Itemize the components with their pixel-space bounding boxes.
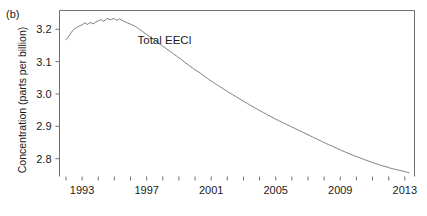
y-tick-label: 3.0 (36, 88, 51, 100)
series-annotation-label: Total EECl (138, 34, 192, 46)
x-tick-label: 2009 (328, 184, 352, 196)
y-tick-label: 2.8 (36, 153, 51, 165)
annotation-group: Total EECl (138, 34, 192, 46)
y-tick-label-group: 2.82.93.03.13.2 (36, 23, 51, 164)
x-tick-label: 1997 (134, 184, 158, 196)
x-tick-label: 2005 (263, 184, 287, 196)
figure-panel-b: (b) Concentration (parts per billion) 2.… (0, 0, 427, 216)
plot-frame (60, 11, 415, 177)
x-tick-label: 1993 (70, 184, 94, 196)
y-tick-mark-group (56, 29, 60, 158)
y-tick-label: 3.2 (36, 23, 51, 35)
data-series-total-eecl (66, 19, 409, 173)
line-chart-plot: 2.82.93.03.13.2 199319972001200520092013… (0, 0, 427, 216)
x-tick-label: 2001 (199, 184, 223, 196)
y-tick-label: 3.1 (36, 56, 51, 68)
x-tick-label-group: 199319972001200520092013 (70, 184, 417, 196)
x-tick-label: 2013 (393, 184, 417, 196)
y-tick-label: 2.9 (36, 120, 51, 132)
x-tick-mark-group (66, 177, 405, 181)
